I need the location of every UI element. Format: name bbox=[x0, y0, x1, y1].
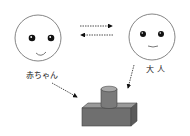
baby-label: 赤ちゃん bbox=[26, 72, 58, 80]
object-block-with-cylinder bbox=[82, 86, 137, 126]
adult-face bbox=[129, 14, 175, 60]
baby-face bbox=[15, 15, 61, 61]
adult-label: 大 人 bbox=[146, 66, 165, 74]
arrow-baby-to-object bbox=[52, 83, 77, 97]
arrow-adult-to-object bbox=[128, 65, 134, 88]
